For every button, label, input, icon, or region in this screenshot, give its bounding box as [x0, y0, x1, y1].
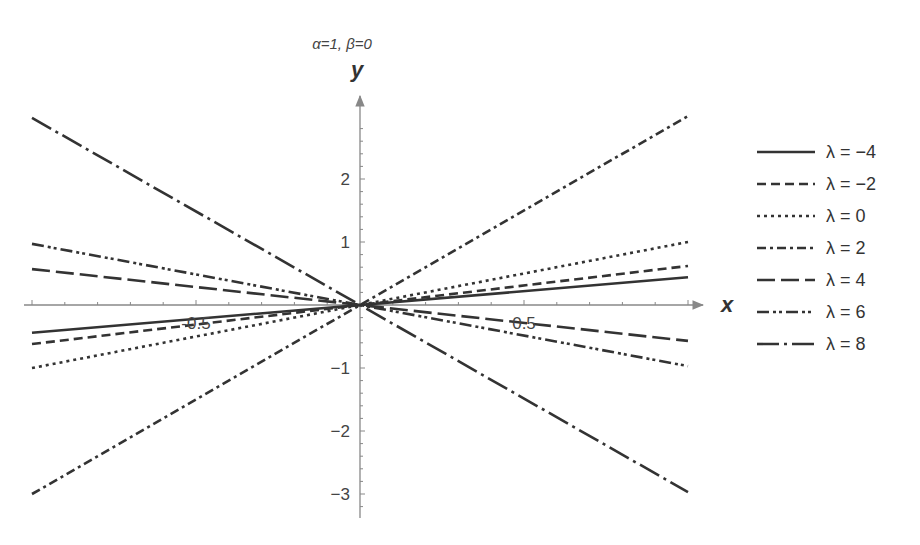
x-axis-label: x — [720, 292, 734, 317]
chart: α=1, β=0 x y -0.50.5 −3−2−112 λ = −4λ = … — [0, 0, 920, 545]
chart-title: α=1, β=0 — [312, 35, 372, 52]
y-tick-label: −2 — [331, 422, 350, 441]
y-tick-label: 1 — [341, 233, 350, 252]
legend-label: λ = 4 — [826, 270, 866, 290]
x-tick-label: 0.5 — [512, 314, 536, 333]
y-axis-label: y — [350, 57, 365, 82]
legend: λ = −4λ = −2λ = 0λ = 2λ = 4λ = 6λ = 8 — [757, 142, 876, 354]
y-tick-label: −3 — [331, 485, 350, 504]
legend-label: λ = −2 — [826, 174, 876, 194]
legend-label: λ = 8 — [826, 334, 866, 354]
legend-item: λ = −4 — [757, 142, 876, 162]
legend-label: λ = 6 — [826, 302, 866, 322]
legend-label: λ = 0 — [826, 206, 866, 226]
legend-label: λ = −4 — [826, 142, 876, 162]
y-tick-labels: −3−2−112 — [331, 170, 350, 504]
y-tick-label: −1 — [331, 359, 350, 378]
y-tick-label: 2 — [341, 170, 350, 189]
legend-item: λ = 4 — [757, 270, 866, 290]
legend-item: λ = −2 — [757, 174, 876, 194]
legend-label: λ = 2 — [826, 238, 866, 258]
legend-item: λ = 2 — [757, 238, 866, 258]
y-ticks — [360, 129, 365, 507]
axes: x y — [24, 57, 734, 518]
legend-item: λ = 6 — [757, 302, 866, 322]
legend-item: λ = 0 — [757, 206, 866, 226]
legend-item: λ = 8 — [757, 334, 866, 354]
x-tick-label: -0.5 — [181, 314, 210, 333]
